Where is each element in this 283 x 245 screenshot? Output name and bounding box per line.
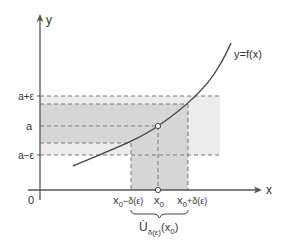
neighborhood-label: U̇δ(ε)(x0) bbox=[139, 220, 178, 237]
x-tick-x0-minus-delta: x0−δ(ε) bbox=[113, 194, 143, 209]
epsilon-delta-diagram: y x 0 y=f(x) a+ε a a−ε x0−δ(ε) x0 x0+δ(ε… bbox=[0, 0, 283, 245]
x-axis-label: x bbox=[266, 183, 272, 197]
origin-label: 0 bbox=[28, 194, 34, 206]
y-tick-a-minus-eps: a−ε bbox=[18, 150, 34, 161]
y-axis-label: y bbox=[46, 13, 52, 27]
x-tick-x0-plus-delta: x0+δ(ε) bbox=[177, 194, 207, 209]
limit-point-marker bbox=[155, 123, 160, 128]
x-tick-x0: x0 bbox=[154, 194, 165, 209]
y-tick-a: a bbox=[26, 120, 33, 132]
delta-band bbox=[131, 104, 188, 190]
curve-label: y=f(x) bbox=[234, 48, 262, 60]
y-tick-a-plus-eps: a+ε bbox=[18, 91, 34, 102]
neighborhood-brace bbox=[131, 210, 188, 218]
x0-axis-marker bbox=[155, 187, 160, 192]
